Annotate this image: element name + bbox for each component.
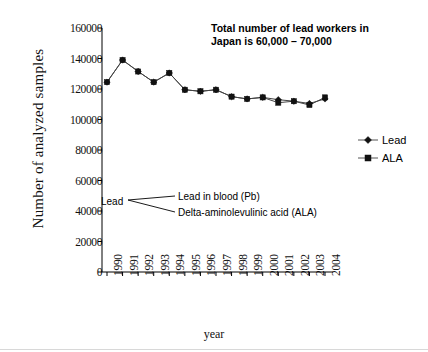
data-point-ala-2002 xyxy=(291,99,296,104)
legend-group xyxy=(358,137,378,162)
data-point-ala-1990 xyxy=(104,80,109,85)
data-point-ala-2004 xyxy=(322,95,327,100)
data-point-ala-2001 xyxy=(276,100,281,105)
data-point-ala-1996 xyxy=(198,89,203,94)
series-line-lead xyxy=(107,60,325,103)
series-line-ala xyxy=(107,60,325,105)
data-point-ala-1998 xyxy=(229,94,234,99)
axes-group xyxy=(98,28,333,276)
diamond-marker-icon xyxy=(365,137,372,144)
callout-line-pb xyxy=(128,196,175,200)
data-point-ala-1991 xyxy=(120,57,125,62)
data-point-ala-1995 xyxy=(182,87,187,92)
callout-line-ala xyxy=(128,200,175,212)
data-point-ala-2000 xyxy=(260,95,265,100)
data-point-ala-1997 xyxy=(213,87,218,92)
data-point-ala-1993 xyxy=(151,80,156,85)
data-series-group xyxy=(104,57,328,108)
data-point-ala-1994 xyxy=(167,70,172,75)
data-point-ala-1992 xyxy=(136,69,141,74)
callout-leader-lines xyxy=(128,196,175,212)
chart-figure: Number of analyzed samples 0200004000060… xyxy=(0,0,428,352)
data-point-ala-2003 xyxy=(307,102,312,107)
square-marker-icon xyxy=(365,155,371,161)
plot-area xyxy=(0,0,428,352)
data-point-ala-1999 xyxy=(245,96,250,101)
